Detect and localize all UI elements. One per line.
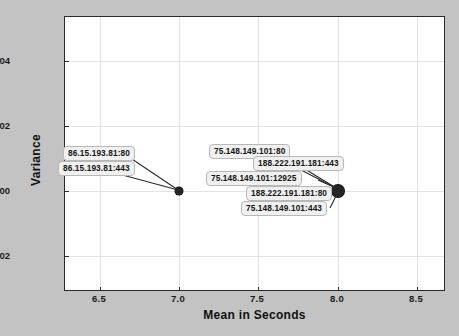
x-axis-label: Mean in Seconds xyxy=(64,308,445,322)
annotation-label[interactable]: 75.148.149.101:443 xyxy=(241,201,327,216)
gridline-horizontal xyxy=(65,61,444,62)
gridline-horizontal xyxy=(65,256,444,257)
gridline-horizontal xyxy=(65,126,444,127)
xtick-mark xyxy=(258,287,259,291)
xtick-label: 8.0 xyxy=(330,293,344,304)
ytick-label: 0.002 xyxy=(0,120,10,131)
xtick-label: 7.5 xyxy=(250,293,264,304)
ytick-mark xyxy=(65,256,69,257)
annotation-label[interactable]: 86.15.193.81:80 xyxy=(63,146,135,161)
annotation-label[interactable]: 75.148.149.101:12925 xyxy=(206,171,302,186)
ytick-mark xyxy=(65,191,69,192)
xtick-mark xyxy=(338,287,339,291)
ytick-label: -0.002 xyxy=(0,250,10,261)
ytick-label: 0.004 xyxy=(0,55,10,66)
annotation-label[interactable]: 86.15.193.81:443 xyxy=(58,161,135,176)
data-point-right[interactable] xyxy=(332,185,345,198)
ytick-mark xyxy=(65,126,69,127)
xtick-label: 8.5 xyxy=(409,293,423,304)
ytick-label: 0.000 xyxy=(0,185,10,196)
gridline-vertical xyxy=(179,17,180,290)
xtick-label: 6.5 xyxy=(92,293,106,304)
xtick-mark xyxy=(179,287,180,291)
xtick-label: 7.0 xyxy=(171,293,185,304)
annotation-label[interactable]: 188.222.191.181:443 xyxy=(253,156,344,171)
gridline-vertical xyxy=(338,17,339,290)
xtick-mark xyxy=(417,287,418,291)
chart-figure: 86.15.193.81:80 86.15.193.81:443 75.148.… xyxy=(0,0,459,336)
data-point-left[interactable] xyxy=(175,187,183,195)
xtick-mark xyxy=(100,287,101,291)
gridline-vertical xyxy=(417,17,418,290)
y-axis-label: Variance xyxy=(29,100,43,220)
ytick-mark xyxy=(65,61,69,62)
annotation-label[interactable]: 188.222.191.181:80 xyxy=(246,186,332,201)
